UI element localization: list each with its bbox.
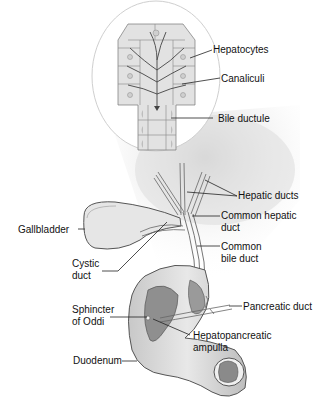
label-common-bile-duct-line1: Common [221, 241, 262, 252]
label-hepatic-ducts: Hepatic ducts [238, 190, 299, 201]
label-common-bile-duct-line2: bile duct [221, 253, 258, 264]
biliary-diagram: Hepatocytes Canaliculi Bile ductule Hepa… [0, 0, 328, 408]
diagram-artwork [0, 0, 328, 408]
label-sphincter-line2: of Oddi [72, 316, 104, 327]
hepatocyte-magnifier [92, 1, 220, 151]
label-bile-ductule: Bile ductule [218, 113, 270, 124]
label-ampulla-line1: Hepatopancreatic [193, 330, 271, 341]
label-pancreatic-duct: Pancreatic duct [243, 301, 312, 312]
label-cystic-duct-line2: duct [72, 270, 91, 281]
label-duodenum: Duodenum [73, 355, 122, 366]
label-hepatocytes: Hepatocytes [213, 44, 269, 55]
label-gallbladder: Gallbladder [18, 224, 69, 235]
label-ampulla-line2: ampulla [193, 342, 228, 353]
label-sphincter-line1: Sphincter [72, 304, 114, 315]
label-common-hepatic-duct-line1: Common hepatic [221, 210, 297, 221]
label-canaliculi: Canaliculi [221, 73, 264, 84]
label-common-hepatic-duct-line2: duct [221, 222, 240, 233]
label-cystic-duct-line1: Cystic [72, 258, 99, 269]
